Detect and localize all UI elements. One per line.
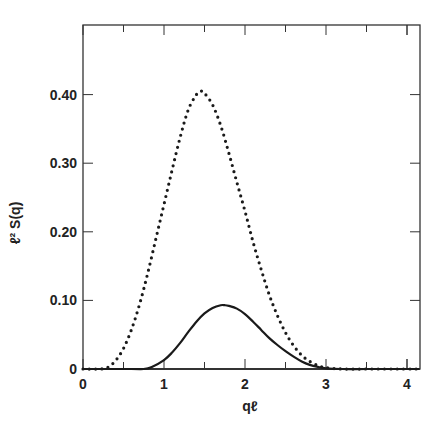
solid-curve xyxy=(83,305,419,369)
x-tick-label: 4 xyxy=(403,376,411,392)
y-tick-labels: 00.100.200.300.40 xyxy=(50,87,77,377)
plot-frame xyxy=(83,25,420,369)
x-tick-label: 1 xyxy=(160,376,168,392)
y-tick-label: 0.30 xyxy=(50,155,77,171)
chart: 00.100.200.300.40 01234 qℓ ℓ² S(q) xyxy=(0,0,439,434)
data-series xyxy=(83,91,419,369)
y-tick-label: 0.10 xyxy=(50,292,77,308)
y-tick-label: 0 xyxy=(69,361,77,377)
x-axis-label: qℓ xyxy=(242,398,258,414)
x-tick-label: 2 xyxy=(241,376,249,392)
y-axis-label: ℓ² S(q) xyxy=(7,202,23,245)
axis-ticks xyxy=(83,25,420,369)
y-tick-label: 0.40 xyxy=(50,87,77,103)
x-tick-label: 3 xyxy=(322,376,330,392)
dotted-curve xyxy=(83,91,419,369)
x-tick-label: 0 xyxy=(79,376,87,392)
plot-border xyxy=(83,25,420,369)
y-tick-label: 0.20 xyxy=(50,224,77,240)
x-tick-labels: 01234 xyxy=(79,376,411,392)
